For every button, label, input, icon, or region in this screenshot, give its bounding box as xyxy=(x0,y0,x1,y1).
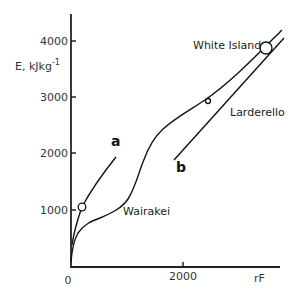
y-tick-label-1000: 1000 xyxy=(40,204,68,217)
series-wairakei-line xyxy=(71,30,282,262)
y-axis-label-sup: -1 xyxy=(52,58,60,67)
series-a-marker xyxy=(78,203,86,211)
annotation-white-island: White Island xyxy=(193,39,261,52)
y-axis-label-main: E, kJkg xyxy=(15,60,52,73)
y-tick-label-3000: 3000 xyxy=(40,91,68,104)
y-axis-label: E, kJkg-1 xyxy=(15,58,60,73)
annotation-a: a xyxy=(111,133,120,149)
y-tick-label-4000: 4000 xyxy=(40,35,68,48)
annotation-larderello: Larderello xyxy=(230,106,285,119)
annotation-wairakei: Wairakei xyxy=(123,205,170,218)
x-tick-label-0: 0 xyxy=(65,274,72,287)
chart: 4000 3000 2000 1000 0 2000 E, kJkg-1 rF … xyxy=(0,0,298,296)
annotation-b: b xyxy=(176,159,186,175)
x-ticks: 0 2000 xyxy=(65,262,198,287)
larderello-marker xyxy=(206,99,211,104)
x-axis-label: rF xyxy=(254,272,265,285)
y-tick-label-2000: 2000 xyxy=(40,147,68,160)
series-b-line xyxy=(174,38,284,160)
white-island-marker xyxy=(260,42,272,54)
x-tick-label-2000: 2000 xyxy=(169,270,197,283)
